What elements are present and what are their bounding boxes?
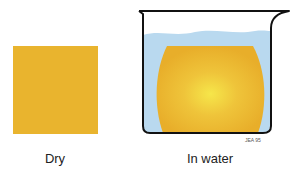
- wet-sponge: [157, 46, 265, 133]
- label-dry: Dry: [25, 151, 85, 166]
- diagram-canvas: JEA 95: [0, 0, 305, 176]
- dry-sponge: [13, 46, 98, 134]
- label-in-water: In water: [170, 151, 250, 166]
- artist-signature: JEA 95: [245, 137, 261, 143]
